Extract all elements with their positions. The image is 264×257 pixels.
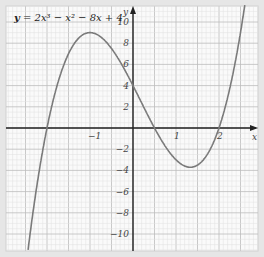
x-tick-label: 1 [174, 131, 180, 141]
y-tick-label: 4 [122, 81, 129, 91]
cubic-graph: xy−112−10−8−6−4−2246810 [0, 0, 264, 257]
y-tick-label: −2 [116, 144, 130, 154]
equation-label: y = 2x³ − x² − 8x + 4 [14, 12, 123, 23]
y-axis-label: y [122, 7, 129, 17]
y-tick-label: 2 [122, 102, 129, 112]
eq-rest: = 2x³ − x² − 8x + 4 [20, 12, 123, 23]
x-tick-label: −1 [88, 131, 101, 141]
y-tick-label: −10 [110, 229, 129, 239]
x-axis-label: x [252, 132, 257, 142]
y-tick-label: −6 [116, 187, 130, 197]
y-tick-label: −4 [116, 165, 130, 175]
y-tick-label: −8 [116, 208, 130, 218]
graph-frame: xy−112−10−8−6−4−2246810 y = 2x³ − x² − 8… [0, 0, 264, 257]
y-tick-label: 8 [123, 38, 129, 48]
